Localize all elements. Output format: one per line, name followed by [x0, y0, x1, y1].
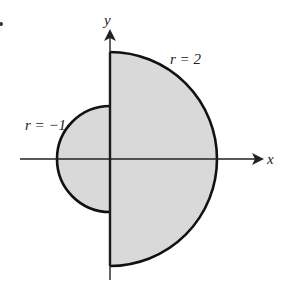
bullet-dot [0, 22, 3, 26]
x-axis-label: x [266, 151, 274, 167]
curve-label-r2-text: r = 2 [170, 51, 201, 67]
y-axis-label: y [102, 12, 111, 28]
polar-diagram: x y r = 2 r = −1 [0, 0, 287, 297]
curve-label-r-neg1-text: r = −1 [25, 117, 66, 133]
curve-label-r-neg1: r = −1 [25, 117, 66, 133]
curve-label-r2: r = 2 [170, 51, 201, 67]
